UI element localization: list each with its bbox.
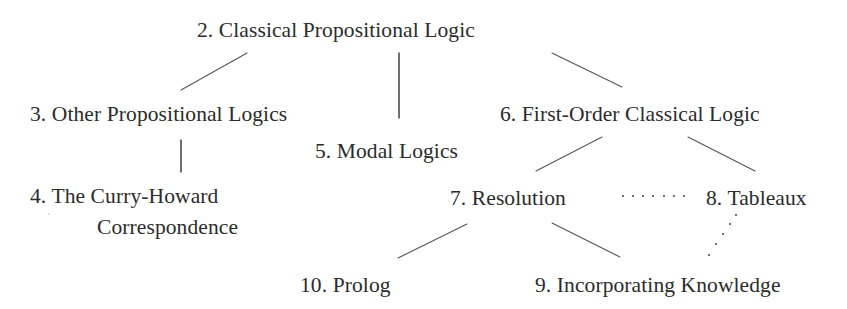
node-tableaux: 8. Tableaux: [706, 188, 807, 210]
node-prolog: 10. Prolog: [300, 275, 391, 297]
node-first-order-classical-logic: 6. First-Order Classical Logic: [500, 104, 760, 126]
node-curry-howard-line1: 4. The Curry-Howard: [30, 184, 218, 208]
edge-2-to-3: [181, 53, 247, 90]
chapter-dependency-diagram: 2. Classical Propositional Logic 3. Othe…: [0, 0, 847, 309]
edge-6-to-7: [536, 137, 602, 171]
edge-6-to-8: [688, 137, 755, 171]
node-classical-propositional-logic: 2. Classical Propositional Logic: [197, 20, 475, 42]
edge-7-to-10: [398, 224, 467, 258]
node-resolution: 7. Resolution: [450, 188, 566, 210]
node-incorporating-knowledge: 9. Incorporating Knowledge: [535, 275, 781, 297]
node-curry-howard-correspondence: 4. The Curry-Howard Correspondence: [30, 186, 238, 238]
node-modal-logics: 5. Modal Logics: [315, 141, 458, 163]
edge-7-to-9: [552, 223, 620, 257]
scan-speck: [48, 213, 50, 215]
node-other-propositional-logics: 3. Other Propositional Logics: [30, 104, 287, 126]
node-curry-howard-line2: Correspondence: [97, 217, 238, 239]
edge-7-to-8-dotted: [622, 195, 685, 197]
edge-2-to-6: [552, 53, 622, 87]
edge-8-to-9-dotted: [708, 214, 737, 256]
